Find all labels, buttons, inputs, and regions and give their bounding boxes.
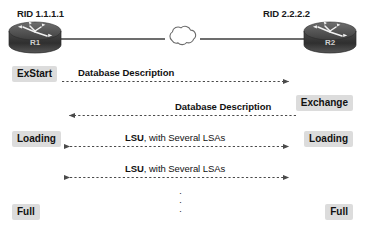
message-label-2-bold: Database Description <box>175 101 271 112</box>
state-badge-full-right: Full <box>325 204 353 220</box>
state-badge-loading-right: Loading <box>304 131 353 147</box>
rid-label-right: RID 2.2.2.2 <box>263 8 310 19</box>
message-label-3: LSU, with Several LSAs <box>125 132 225 143</box>
network-cloud-icon <box>170 26 196 44</box>
message-label-4-bold: LSU <box>125 163 144 174</box>
router-icon-right: R2 <box>304 21 356 53</box>
svg-text:R2: R2 <box>325 38 336 47</box>
ellipsis-dot-3: · <box>178 207 183 216</box>
message-label-4-plain: , with Several LSAs <box>144 163 225 174</box>
message-label-3-bold: LSU <box>125 132 144 143</box>
router-icon-left: R1 <box>9 21 61 53</box>
state-badge-full-left: Full <box>12 204 40 220</box>
state-badge-loading-left: Loading <box>12 131 61 147</box>
state-badge-exchange: Exchange <box>296 95 353 111</box>
message-label-3-plain: , with Several LSAs <box>144 132 225 143</box>
message-label-1: Database Description <box>78 67 174 78</box>
message-label-4: LSU, with Several LSAs <box>125 163 225 174</box>
state-badge-exstart: ExStart <box>12 66 57 82</box>
svg-text:R1: R1 <box>30 38 41 47</box>
ospf-state-diagram: R1 R2 <box>0 0 365 239</box>
message-label-1-bold: Database Description <box>78 67 174 78</box>
rid-label-left: RID 1.1.1.1 <box>17 8 64 19</box>
message-label-2: Database Description <box>175 101 271 112</box>
